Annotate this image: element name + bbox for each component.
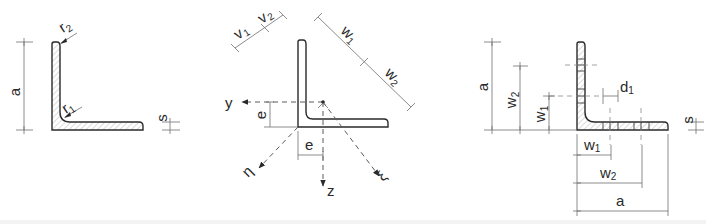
label-d1: d1 [620,78,634,96]
dimension-r2: r2 [55,15,77,44]
angle-profile-diagram: a r2 r1 s [0,0,706,224]
dimension-s: s [153,114,180,134]
axis-z: z [323,102,335,199]
dimension-e-horizontal: e [298,131,323,160]
label-s: s [153,114,170,122]
dimension-e-vertical: e [252,102,298,127]
label-a: a [6,87,23,96]
label-z: z [327,182,335,199]
label-w2-vertical: w2 [502,91,521,109]
axis-eta: η [238,127,298,180]
label-r1: r1 [58,96,78,118]
label-v2: v2 [254,4,276,27]
dimension-r1: r1 [58,96,82,118]
dimension-v: v1 v2 [230,4,287,52]
panel-axes: v1 v2 w1 w2 y z [225,4,415,199]
label-y: y [225,94,233,111]
label-e-horizontal: e [305,136,313,153]
label-w1-horizontal: w1 [583,136,601,154]
label-s-right: s [679,116,696,124]
label-eta: η [238,162,256,180]
label-a-horizontal: a [616,192,625,209]
label-w1-vertical: w1 [531,105,550,123]
panel-hole-gauges: a w2 w1 d1 [474,38,704,216]
label-w1: w1 [336,21,362,47]
label-xi: ξ [373,167,390,184]
dimension-w: w1 w2 [314,13,415,111]
axis-y: y [225,94,323,111]
label-a-vertical: a [474,82,491,91]
label-w2-horizontal: w2 [599,164,617,182]
dimension-a-vertical: a [474,38,577,134]
dimension-a: a [6,38,33,134]
label-e-vertical: e [252,111,269,119]
label-v1: v1 [230,20,252,43]
bottom-band [0,220,706,224]
dimension-s-right: s [679,116,704,134]
angle-section-outline [298,40,388,127]
label-r2: r2 [55,15,75,37]
panel-geometry: a r2 r1 s [6,15,180,134]
dimension-d1: d1 [603,78,634,104]
axis-xi: ξ [323,102,390,184]
dimension-w2-vertical: w2 [502,62,528,134]
label-w2: w2 [380,63,406,89]
dimension-w1-vertical: w1 [531,92,555,134]
dimension-w1-horizontal: w1 [573,136,611,160]
